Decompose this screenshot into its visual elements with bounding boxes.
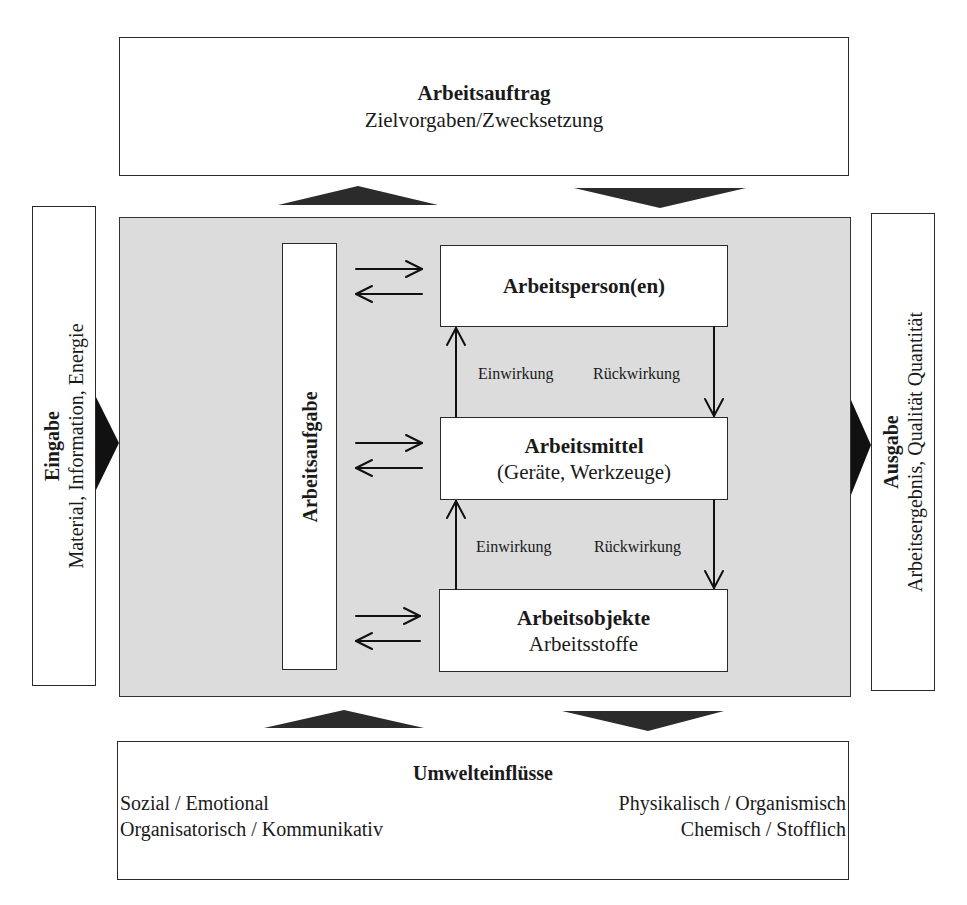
- output-title: Ausgabe: [879, 312, 903, 592]
- environment-box: Umwelteinflüsse Sozial / Emotional Organ…: [117, 741, 849, 880]
- work-order-box: Arbeitsauftrag Zielvorgaben/Zwecksetzung: [119, 37, 849, 176]
- environment-item-chemical: Chemisch / Stofflich: [619, 816, 846, 842]
- work-task-box: Arbeitsaufgabe: [282, 243, 337, 670]
- feedback-label-2: Rückwirkung: [594, 538, 681, 556]
- down-triangle-icon: [574, 188, 746, 208]
- work-objects-box: Arbeitsobjekte Arbeitsstoffe: [439, 589, 728, 672]
- up-triangle-icon: [278, 186, 438, 205]
- work-equipment-subtitle: (Geräte, Werkzeuge): [497, 459, 671, 485]
- right-triangle-icon: [96, 397, 119, 490]
- environment-right-list: Physikalisch / Organismisch Chemisch / S…: [619, 790, 846, 842]
- feedback-label-1: Rückwirkung: [593, 365, 680, 383]
- input-subtitle: Material, Information, Energie: [64, 323, 88, 568]
- work-order-subtitle: Zielvorgaben/Zwecksetzung: [365, 108, 604, 133]
- environment-item-physical: Physikalisch / Organismisch: [619, 790, 846, 816]
- influence-label-1: Einwirkung: [478, 365, 554, 383]
- up-triangle-icon: [264, 710, 424, 728]
- work-equipment-title: Arbeitsmittel: [525, 433, 644, 459]
- environment-item-social: Sozial / Emotional: [120, 790, 383, 816]
- output-text: Ausgabe Arbeitsergebnis, Qualität Quanti…: [879, 312, 927, 592]
- work-task-title: Arbeitsaufgabe: [298, 391, 321, 522]
- influence-label-2: Einwirkung: [476, 538, 552, 556]
- work-person-title: Arbeitsperson(en): [503, 274, 665, 299]
- environment-left-list: Sozial / Emotional Organisatorisch / Kom…: [120, 790, 383, 842]
- work-objects-title: Arbeitsobjekte: [517, 605, 650, 631]
- output-subtitle: Arbeitsergebnis, Qualität Quantität: [903, 312, 927, 592]
- down-triangle-icon: [562, 711, 724, 731]
- work-person-box: Arbeitsperson(en): [440, 245, 728, 327]
- work-order-title: Arbeitsauftrag: [418, 81, 551, 106]
- input-title: Eingabe: [40, 323, 64, 568]
- input-text: Eingabe Material, Information, Energie: [40, 323, 88, 568]
- right-triangle-icon: [851, 400, 871, 495]
- output-box: Ausgabe Arbeitsergebnis, Qualität Quanti…: [871, 213, 935, 691]
- work-equipment-box: Arbeitsmittel (Geräte, Werkzeuge): [440, 417, 728, 500]
- environment-item-organizational: Organisatorisch / Kommunikativ: [120, 816, 383, 842]
- input-box: Eingabe Material, Information, Energie: [32, 206, 96, 686]
- environment-title: Umwelteinflüsse: [118, 762, 848, 785]
- work-objects-subtitle: Arbeitsstoffe: [529, 631, 638, 657]
